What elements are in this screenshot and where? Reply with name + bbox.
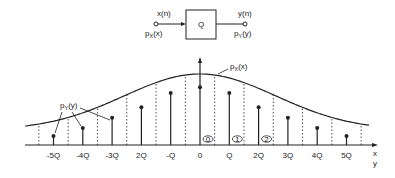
x-axis-arrow [372, 143, 378, 147]
tick-labels: -5Q-4Q-3Q2Q-Q0Q2Q3Q4Q5Q [47, 151, 352, 160]
stem-dot [227, 91, 231, 95]
pdf-plot: -5Q-4Q-3Q2Q-Q0Q2Q3Q4Q5Q 012 pX(x) pY(y) … [25, 57, 378, 168]
interval-markers: 012 [203, 135, 272, 144]
tick-label: -5Q [47, 151, 60, 160]
tick-label: -Q [166, 151, 175, 160]
interval-oval-text: 2 [264, 135, 269, 144]
stem-dot [345, 134, 349, 138]
interval-oval-text: 1 [235, 135, 240, 144]
tick-label: 5Q [341, 151, 352, 160]
stem-dot [198, 85, 202, 89]
input-pdf-label: pX(x) [145, 29, 163, 39]
tick-label: 3Q [283, 151, 294, 160]
curve-label-pointer [218, 69, 228, 74]
input-pdf-curve [25, 74, 369, 126]
block-diagram: Q x(n) pX(x) y(n) pY(y) [145, 9, 252, 39]
stem-label-pointer-1 [55, 112, 62, 133]
stem-dot [257, 105, 261, 109]
stem-dot [315, 126, 319, 130]
input-node [154, 22, 158, 26]
stem-dot [286, 116, 290, 120]
tick-label: Q [226, 151, 232, 160]
input-signal-label: x(n) [157, 9, 171, 18]
stem-dot [110, 116, 114, 120]
y-axis-label: y [373, 159, 377, 168]
stem-label: pY(y) [60, 101, 78, 111]
output-pdf-label: pY(y) [234, 29, 252, 39]
tick-label: 2Q [136, 151, 147, 160]
interval-oval-text: 0 [206, 135, 211, 144]
input-arrow-head [181, 22, 186, 26]
tick-label: -4Q [76, 151, 89, 160]
output-signal-label: y(n) [238, 9, 252, 18]
quantizer-diagram: Q x(n) pX(x) y(n) pY(y) -5Q-4Q-3Q2Q-Q0Q2… [0, 0, 395, 178]
tick-label: 2Q [253, 151, 264, 160]
y-axis-arrow [198, 57, 202, 63]
stem-dot [52, 134, 56, 138]
curve-label: pX(x) [230, 62, 248, 72]
stem-dot [81, 126, 85, 130]
stem-label-pointer-3 [80, 108, 110, 120]
tick-label: -3Q [105, 151, 118, 160]
tick-label: 4Q [312, 151, 323, 160]
tick-label: 0 [198, 151, 203, 160]
output-node [243, 22, 247, 26]
quantizer-label: Q [198, 20, 204, 29]
stem-dot [169, 91, 173, 95]
x-axis-label: x [373, 149, 377, 158]
stem-dot [139, 105, 143, 109]
